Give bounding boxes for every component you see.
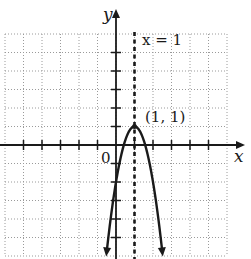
x-axis-label: x: [234, 146, 244, 166]
axis-of-symmetry-label: x = 1: [142, 31, 182, 49]
vertex-label: (1, 1): [145, 108, 185, 126]
origin-label: 0: [101, 149, 111, 167]
y-axis-label: y: [102, 4, 113, 24]
parabola-graph: y x 0 x = 1 (1, 1): [0, 0, 251, 259]
vertex-point: [132, 124, 137, 129]
